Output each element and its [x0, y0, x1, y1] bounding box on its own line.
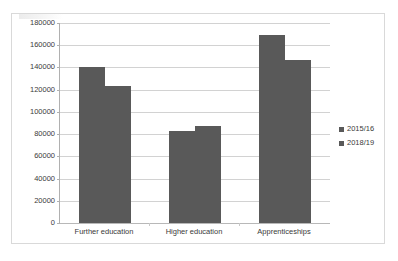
bar-group: [259, 23, 311, 223]
category-axis: Further educationHigher educationApprent…: [59, 226, 330, 242]
bar-group: [169, 23, 221, 223]
y-axis-tick-label: 120000: [30, 86, 55, 94]
chart-legend: 2015/16 2018/19: [339, 122, 385, 150]
y-axis-tick-label: 60000: [34, 153, 55, 161]
y-axis-tick-label: 40000: [34, 175, 55, 183]
y-axis-tick-label: 20000: [34, 197, 55, 205]
bars-layer: [60, 23, 330, 223]
bar[interactable]: [285, 60, 311, 223]
bar[interactable]: [169, 131, 195, 223]
y-axis-tick-label: 140000: [30, 64, 55, 72]
legend-swatch-icon: [339, 127, 344, 132]
legend-item-label: 2015/16: [347, 125, 374, 133]
category-axis-label: Apprenticeships: [257, 228, 310, 236]
category-axis-label: Further education: [75, 228, 134, 236]
gridline: [60, 223, 330, 224]
category-axis-tick-mark: [149, 223, 150, 226]
bar-chart-figure: 0200004000060000800001000001200001400001…: [11, 13, 385, 244]
bar[interactable]: [259, 35, 285, 223]
legend-swatch-icon: [339, 141, 344, 146]
y-axis-tick-label: 80000: [34, 130, 55, 138]
category-axis-tick-mark: [239, 223, 240, 226]
y-axis-tick-label: 0: [51, 219, 55, 227]
bar[interactable]: [79, 67, 105, 223]
bar-group: [79, 23, 131, 223]
y-axis-tick-label: 100000: [30, 108, 55, 116]
legend-item[interactable]: 2015/16: [339, 122, 385, 136]
legend-item-label: 2018/19: [347, 139, 374, 147]
y-axis-tick-label: 160000: [30, 41, 55, 49]
legend-item[interactable]: 2018/19: [339, 136, 385, 150]
y-axis-tick-mark: [57, 223, 60, 224]
category-axis-label: Higher education: [166, 228, 223, 236]
y-axis-tick-label: 180000: [30, 19, 55, 27]
plot-area: 0200004000060000800001000001200001400001…: [59, 23, 330, 223]
bar[interactable]: [105, 86, 131, 223]
bar[interactable]: [195, 126, 221, 223]
